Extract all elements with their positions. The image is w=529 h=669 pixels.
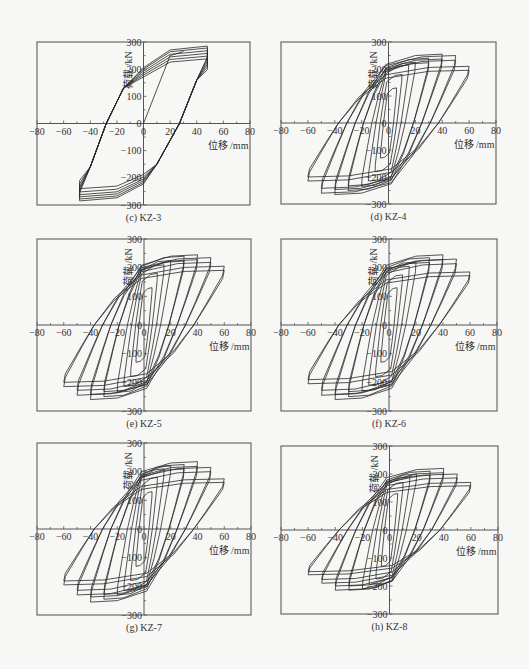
y-tick-label: 300 [372, 37, 387, 48]
x-tick-label: 40 [438, 327, 448, 338]
x-tick-label: 60 [466, 532, 476, 543]
x-tick-label: −80 [29, 126, 45, 137]
y-axis-label: 荷载 /kN [369, 455, 380, 493]
x-tick-label: 0 [142, 531, 147, 542]
panel-caption-c: (c) KZ-3 [126, 212, 161, 223]
chart-panel-c: −80−60−40−20020406080−300−200−1001002003… [29, 37, 255, 211]
x-tick-label: 80 [492, 327, 502, 338]
y-tick-label: −300 [121, 610, 142, 621]
x-tick-label: 60 [465, 327, 475, 338]
chart-panel-h: −80−60−40−20020406080−300−200−1001002003… [273, 441, 503, 620]
y-tick-label: −300 [367, 609, 388, 620]
panel-caption-h: (h) KZ-8 [372, 621, 408, 632]
x-tick-label: −80 [273, 125, 289, 136]
y-tick-label: 0 [137, 118, 142, 129]
x-axis-label: 位移 /mm [209, 544, 250, 556]
figure-canvas: −80−60−40−20020406080−300−200−1001002003… [0, 0, 529, 669]
y-tick-label: −300 [121, 200, 142, 211]
x-axis-label: 位移 /mm [454, 138, 495, 150]
x-tick-label: 0 [386, 125, 391, 136]
y-tick-label: 300 [127, 234, 142, 245]
x-tick-label: −40 [327, 125, 343, 136]
x-tick-label: 80 [245, 126, 255, 137]
chart-panel-g: −80−60−40−20020406080−300−200−1001002003… [29, 438, 256, 621]
x-tick-label: 80 [491, 125, 501, 136]
x-tick-label: 0 [387, 532, 392, 543]
x-tick-label: −40 [83, 327, 99, 338]
x-tick-label: −40 [327, 327, 343, 338]
x-tick-label: −80 [29, 531, 45, 542]
x-tick-label: −60 [300, 327, 316, 338]
y-tick-label: −300 [121, 406, 142, 417]
y-tick-label: 300 [373, 441, 388, 452]
panel-caption-e: (e) KZ-5 [126, 418, 161, 429]
x-tick-label: 20 [165, 126, 175, 137]
y-tick-label: −100 [121, 348, 142, 359]
x-tick-label: 0 [387, 327, 392, 338]
y-axis-label: 荷载 /kN [123, 452, 134, 490]
y-tick-label: 100 [127, 91, 142, 102]
x-tick-label: 80 [246, 327, 256, 338]
x-tick-label: 60 [219, 531, 229, 542]
x-tick-label: 40 [439, 532, 449, 543]
x-tick-label: 40 [193, 327, 203, 338]
x-tick-label: 80 [493, 532, 503, 543]
x-tick-label: −60 [300, 125, 316, 136]
x-tick-label: 80 [246, 531, 256, 542]
y-axis-label: 荷载 /kN [368, 51, 379, 89]
x-axis-label: 位移 /mm [456, 545, 497, 557]
y-tick-label: 300 [127, 37, 142, 48]
x-axis-label: 位移 /mm [208, 139, 249, 151]
y-tick-label: −300 [366, 199, 387, 210]
x-tick-label: −80 [273, 532, 289, 543]
x-tick-label: −80 [29, 327, 45, 338]
x-tick-label: −80 [273, 327, 289, 338]
x-tick-label: −40 [83, 531, 99, 542]
y-tick-label: −300 [366, 406, 387, 417]
x-tick-label: −60 [56, 327, 72, 338]
chart-panel-e: −80−60−40−20020406080−300−200−1001002003… [29, 234, 256, 417]
x-tick-label: −60 [56, 531, 72, 542]
panel-caption-d: (d) KZ-4 [371, 211, 407, 222]
x-tick-label: 0 [141, 126, 146, 137]
x-tick-label: 40 [437, 125, 447, 136]
x-tick-label: 60 [464, 125, 474, 136]
panel-caption-g: (g) KZ-7 [126, 622, 162, 633]
x-tick-label: 60 [218, 126, 228, 137]
x-tick-label: 40 [193, 531, 203, 542]
x-tick-label: −40 [82, 126, 98, 137]
x-tick-label: 40 [192, 126, 202, 137]
y-tick-label: −100 [121, 552, 142, 563]
chart-panel-d: −80−60−40−20020406080−300−200−1001002003… [273, 37, 501, 210]
chart-panel-f: −80−60−40−20020406080−300−200−1001002003… [273, 234, 502, 417]
panel-caption-f: (f) KZ-6 [372, 418, 406, 429]
y-tick-label: 300 [127, 438, 142, 449]
y-tick-label: −100 [121, 145, 142, 156]
x-tick-label: −60 [300, 532, 316, 543]
y-tick-label: 300 [372, 234, 387, 245]
x-tick-label: −60 [56, 126, 72, 137]
x-axis-label: 位移 /mm [209, 340, 250, 352]
x-tick-label: 60 [219, 327, 229, 338]
x-axis-label: 位移 /mm [455, 340, 496, 352]
x-tick-label: −20 [109, 126, 125, 137]
x-tick-label: 0 [142, 327, 147, 338]
